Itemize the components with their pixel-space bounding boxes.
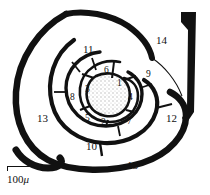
scale-bar-tick-left <box>7 166 8 171</box>
scale-bar-line <box>7 166 47 167</box>
outer-wall-upper-hook <box>66 13 152 59</box>
scale-bar-unit: μ <box>24 173 30 185</box>
chamber-label-3: 3 <box>85 85 90 95</box>
scale-bar-rule <box>7 166 47 172</box>
scale-bar: 100μ <box>7 166 67 185</box>
chamber-label-9: 9 <box>146 70 151 80</box>
chamber-label-4: 4 <box>128 93 133 103</box>
chamber-label-15: 15 <box>127 160 138 171</box>
chamber-label-8: 8 <box>70 93 75 103</box>
chamber-label-5: 5 <box>85 114 90 124</box>
scale-bar-tick-right <box>46 166 47 171</box>
chamber-label-2: 2 <box>101 118 106 128</box>
central-stippled-region <box>87 73 130 116</box>
chamber-label-1: 1 <box>117 79 122 89</box>
chamber-label-13: 13 <box>37 113 48 124</box>
scale-bar-value: 100 <box>7 173 24 185</box>
outer-wall-thin-right <box>152 58 182 96</box>
chamber-label-6: 6 <box>104 66 109 76</box>
chamber-label-10: 10 <box>86 141 97 152</box>
scale-bar-label: 100μ <box>7 173 67 185</box>
septum-9 <box>118 126 120 136</box>
chamber-label-14: 14 <box>156 35 167 46</box>
chamber-label-11: 11 <box>83 44 94 55</box>
figure-root: 1 2 3 4 5 6 7 8 9 10 11 12 13 14 15 100μ <box>0 0 210 195</box>
chamber-label-12: 12 <box>166 113 177 124</box>
central-chamber-group <box>87 73 130 116</box>
chamber-label-7: 7 <box>127 117 132 127</box>
